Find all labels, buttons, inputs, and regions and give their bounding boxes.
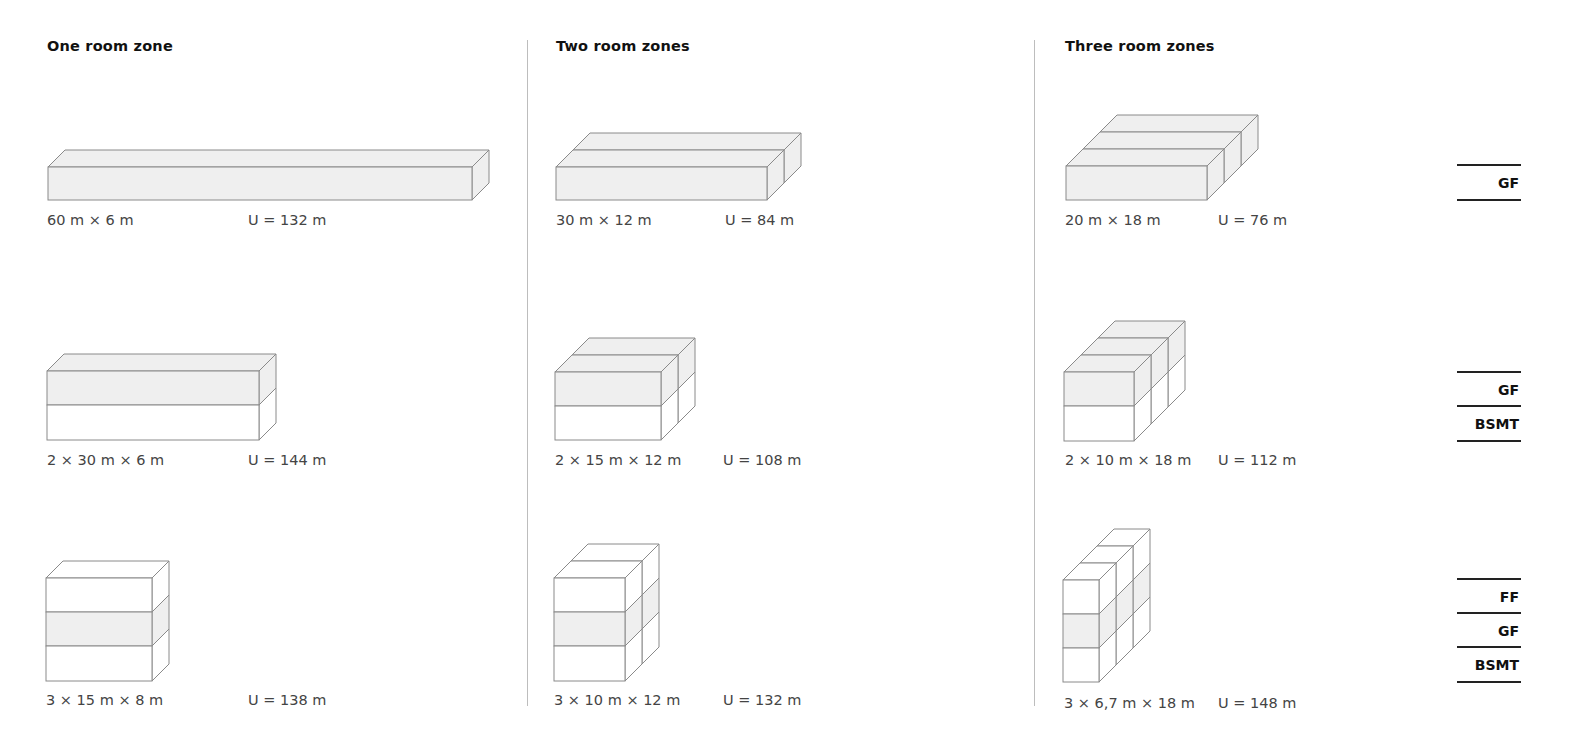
roof-face <box>556 150 784 167</box>
legend-separator-line <box>1457 164 1521 166</box>
legend-separator-line <box>1457 681 1521 683</box>
perimeter-label: U = 84 m <box>725 212 794 228</box>
perimeter-label: U = 112 m <box>1218 452 1296 468</box>
roof-face <box>46 561 169 578</box>
legend-floor-label-bsmt: BSMT <box>1449 657 1519 673</box>
building-box-r2c1 <box>47 354 276 440</box>
roof-face <box>48 150 489 167</box>
dimensions-label: 3 × 15 m × 8 m <box>46 692 163 708</box>
legend-floor-label-gf: GF <box>1449 175 1519 191</box>
front-face-floor <box>554 646 625 681</box>
dimensions-label: 2 × 15 m × 12 m <box>555 452 681 468</box>
dimensions-label: 2 × 10 m × 18 m <box>1065 452 1191 468</box>
building-box-r3c2 <box>554 544 659 681</box>
dimensions-label: 60 m × 6 m <box>47 212 134 228</box>
front-face-ground-floor <box>1066 166 1207 200</box>
legend-separator-line <box>1457 578 1521 580</box>
roof-face <box>1083 132 1241 149</box>
legend-separator-line <box>1457 199 1521 201</box>
front-face-ground-floor <box>556 167 767 200</box>
perimeter-label: U = 76 m <box>1218 212 1287 228</box>
perimeter-label: U = 132 m <box>248 212 326 228</box>
building-box-r2c3 <box>1064 321 1185 441</box>
building-box-r3c3 <box>1063 529 1150 682</box>
front-face-floor <box>555 406 661 440</box>
perimeter-label: U = 144 m <box>248 452 326 468</box>
building-volume-diagrams <box>0 0 1572 741</box>
building-box-r2c2 <box>555 338 695 440</box>
building-box-r3c1 <box>46 561 169 681</box>
legend-floor-label-bsmt: BSMT <box>1449 416 1519 432</box>
front-face-floor <box>46 578 152 612</box>
legend-separator-line <box>1457 371 1521 373</box>
front-face-floor <box>47 405 259 440</box>
front-face-floor <box>1064 406 1134 441</box>
front-face-ground-floor <box>1064 372 1134 406</box>
perimeter-label: U = 138 m <box>248 692 326 708</box>
roof-face <box>1066 149 1224 166</box>
legend-separator-line <box>1457 612 1521 614</box>
roof-face <box>1100 115 1258 132</box>
roof-face <box>572 338 695 355</box>
building-box-r1c1 <box>48 150 489 200</box>
front-face-ground-floor <box>47 371 259 405</box>
front-face-floor <box>1063 580 1099 614</box>
roof-face <box>573 133 801 150</box>
front-face-floor <box>46 646 152 681</box>
perimeter-label: U = 132 m <box>723 692 801 708</box>
building-box-r1c3 <box>1066 115 1258 200</box>
roof-face <box>555 355 678 372</box>
perimeter-label: U = 108 m <box>723 452 801 468</box>
dimensions-label: 30 m × 12 m <box>556 212 652 228</box>
front-face-ground-floor <box>48 167 472 200</box>
front-face-floor <box>1063 648 1099 682</box>
front-face-ground-floor <box>46 612 152 646</box>
roof-face <box>47 354 276 371</box>
legend-floor-label-gf: GF <box>1449 623 1519 639</box>
front-face-floor <box>554 578 625 612</box>
legend-floor-label-gf: GF <box>1449 382 1519 398</box>
front-face-ground-floor <box>1063 614 1099 648</box>
front-face-ground-floor <box>555 372 661 406</box>
legend-separator-line <box>1457 440 1521 442</box>
dimensions-label: 20 m × 18 m <box>1065 212 1161 228</box>
perimeter-label: U = 148 m <box>1218 695 1296 711</box>
legend-separator-line <box>1457 405 1521 407</box>
building-box-r1c2 <box>556 133 801 200</box>
dimensions-label: 2 × 30 m × 6 m <box>47 452 164 468</box>
dimensions-label: 3 × 10 m × 12 m <box>554 692 680 708</box>
front-face-ground-floor <box>554 612 625 646</box>
legend-floor-label-ff: FF <box>1449 589 1519 605</box>
dimensions-label: 3 × 6,7 m × 18 m <box>1064 695 1195 711</box>
legend-separator-line <box>1457 646 1521 648</box>
